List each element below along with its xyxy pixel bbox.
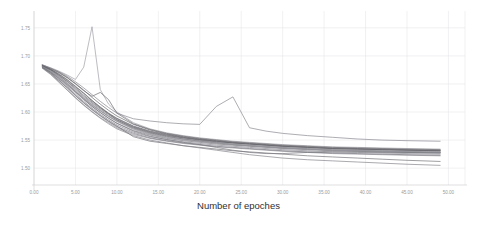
x-tick-label: 0.00 [30, 190, 39, 195]
x-tick-label: 35.00 [318, 190, 330, 195]
y-tick-label: 1.60 [21, 110, 30, 115]
x-tick-label: 5.00 [71, 190, 80, 195]
y-tick-label: 1.55 [21, 138, 30, 143]
x-tick-label: 40.00 [360, 190, 372, 195]
chart-svg: 1.751.701.651.601.551.50 0.005.0010.0015… [0, 0, 477, 226]
x-tick-label: 10.00 [111, 190, 123, 195]
y-tick-label: 1.65 [21, 82, 30, 87]
x-tick-label: 45.00 [401, 190, 413, 195]
loss-curve-chart: 1.751.701.651.601.551.50 0.005.0010.0015… [0, 0, 477, 226]
y-tick-label: 1.75 [21, 26, 30, 31]
x-tick-label: 25.00 [235, 190, 247, 195]
y-tick-label: 1.70 [21, 54, 30, 59]
x-tick-label: 20.00 [194, 190, 206, 195]
x-axis-title: Number of epoches [197, 200, 280, 211]
x-tick-label: 15.00 [153, 190, 165, 195]
x-tick-label: 50.00 [443, 190, 455, 195]
x-tick-label: 30.00 [277, 190, 289, 195]
y-tick-label: 1.50 [21, 166, 30, 171]
